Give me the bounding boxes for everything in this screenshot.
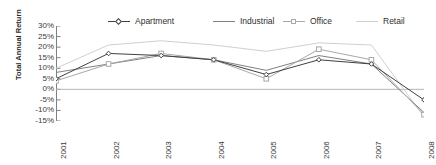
x-axis-tick: 2001 xyxy=(59,141,68,159)
legend-marker-diamond-icon xyxy=(115,17,122,24)
y-axis-tick: -15% xyxy=(35,117,54,125)
y-axis-tick: 0% xyxy=(42,85,54,93)
x-axis-tick: 2006 xyxy=(322,141,331,159)
series-svg xyxy=(56,26,424,121)
legend-label: Apartment xyxy=(135,16,174,26)
marker-apartment xyxy=(106,51,111,56)
plot-area xyxy=(56,26,424,121)
x-axis-tick: 2005 xyxy=(269,141,278,159)
marker-apartment xyxy=(317,57,322,62)
marker-office xyxy=(317,47,322,52)
y-axis-tick: 20% xyxy=(38,43,54,51)
x-axis-tick: 2003 xyxy=(164,141,173,159)
marker-office xyxy=(422,112,424,117)
y-axis-tick: 10% xyxy=(38,64,54,72)
legend-label: Office xyxy=(310,16,332,26)
legend-label: Industrial xyxy=(240,16,275,26)
y-axis-tick-labels: 30%25%20%15%10%5%0%-5%-10%-15% xyxy=(14,0,54,165)
legend-swatch xyxy=(283,21,305,22)
series-line-retail xyxy=(56,41,424,117)
legend-label: Retail xyxy=(383,16,405,26)
x-axis-tick: 2002 xyxy=(112,141,121,159)
y-axis-tick: 5% xyxy=(42,75,54,83)
x-axis-tick: 2004 xyxy=(217,141,226,159)
legend-marker-square-icon xyxy=(291,19,296,24)
marker-office xyxy=(106,62,111,67)
x-axis-tick: 2008 xyxy=(427,141,436,159)
y-axis-tick: 30% xyxy=(38,22,54,30)
legend-swatch xyxy=(108,21,130,22)
y-axis-tick: 25% xyxy=(38,33,54,41)
y-axis-tick: -5% xyxy=(40,96,54,104)
x-axis-tick: 2007 xyxy=(374,141,383,159)
legend-swatch xyxy=(213,21,235,22)
y-axis-tick: -10% xyxy=(35,106,54,114)
y-axis-tick: 15% xyxy=(38,54,54,62)
legend-swatch xyxy=(356,21,378,22)
